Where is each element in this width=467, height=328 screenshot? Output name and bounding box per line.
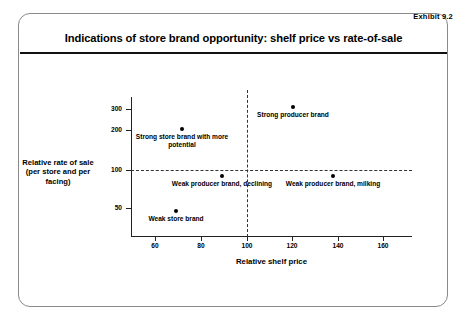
y-tick-label: 100 — [96, 166, 122, 173]
scatter-plot: 30020010050 6080100120140160 Strong stor… — [0, 0, 467, 328]
data-point-marker — [331, 174, 336, 179]
x-tick-mark — [201, 237, 202, 241]
data-point-marker — [180, 127, 185, 132]
x-tick-label: 120 — [277, 242, 307, 249]
x-axis-line — [131, 236, 412, 237]
y-axis-title: Relative rate of sale (per store and per… — [20, 158, 96, 186]
x-tick-label: 140 — [323, 242, 353, 249]
data-point-label: Weak producer brand, milking — [273, 180, 393, 188]
x-tick-label: 160 — [368, 242, 398, 249]
y-tick-mark — [126, 130, 131, 131]
x-tick-mark — [338, 237, 339, 241]
y-tick-mark — [126, 109, 131, 110]
y-tick-mark — [126, 208, 131, 209]
x-tick-label: 80 — [186, 242, 216, 249]
data-point-label: Strong producer brand — [233, 111, 353, 119]
data-point-label: Weak store brand — [116, 215, 236, 223]
y-tick-label: 200 — [96, 126, 122, 133]
reference-line-horizontal — [131, 170, 412, 171]
y-tick-label: 300 — [96, 105, 122, 112]
x-tick-label: 60 — [140, 242, 170, 249]
x-axis-title: Relative shelf price — [131, 257, 412, 266]
x-tick-mark — [155, 237, 156, 241]
slide-canvas: Exhibit 9.2 Indications of store brand o… — [0, 0, 467, 328]
x-tick-mark — [247, 237, 248, 241]
data-point-marker — [291, 105, 296, 110]
data-point-marker — [174, 209, 179, 214]
data-point-label: Strong store brand with more potential — [122, 133, 242, 149]
x-tick-label: 100 — [232, 242, 262, 249]
x-tick-mark — [383, 237, 384, 241]
data-point-marker — [220, 174, 225, 179]
data-point-label: Weak producer brand, declining — [162, 180, 282, 188]
y-tick-label: 50 — [96, 204, 122, 211]
x-tick-mark — [292, 237, 293, 241]
